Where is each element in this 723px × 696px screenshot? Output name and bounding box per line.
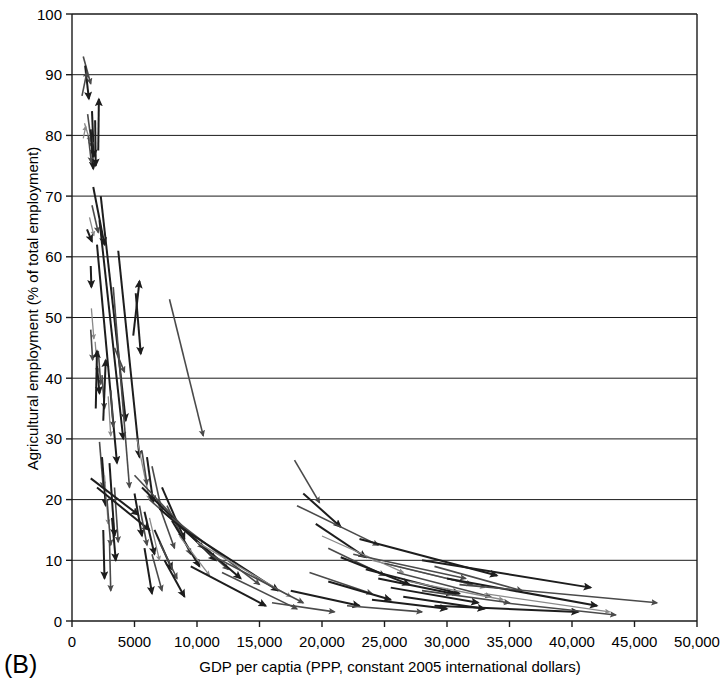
data-arrow — [272, 603, 335, 612]
data-arrow — [90, 217, 94, 235]
data-arrow — [210, 554, 304, 603]
y-axis-title: Agricultural employment (% of total empl… — [24, 99, 41, 519]
svg-text:10: 10 — [45, 552, 62, 569]
data-arrow — [347, 606, 422, 612]
svg-text:50,000: 50,000 — [674, 633, 720, 650]
data-arrow — [91, 478, 139, 514]
panel-label: (B) — [4, 650, 37, 679]
x-axis-title: GDP per captia (PPP, constant 2005 inter… — [80, 658, 700, 675]
svg-text:45,000: 45,000 — [612, 633, 658, 650]
data-arrow — [83, 126, 86, 138]
svg-text:70: 70 — [45, 188, 62, 205]
svg-text:100: 100 — [37, 6, 62, 23]
data-arrow — [191, 566, 266, 605]
axis-ticks — [66, 14, 697, 627]
data-arrow — [145, 548, 153, 594]
gridlines — [72, 14, 697, 621]
data-arrow — [180, 536, 210, 575]
svg-text:35,000: 35,000 — [487, 633, 533, 650]
svg-text:30: 30 — [45, 430, 62, 447]
svg-text:5000: 5000 — [118, 633, 151, 650]
svg-text:80: 80 — [45, 127, 62, 144]
data-arrow — [91, 266, 92, 287]
data-arrow — [170, 299, 204, 436]
svg-text:25,000: 25,000 — [362, 633, 408, 650]
data-arrow — [95, 120, 96, 166]
svg-text:50: 50 — [45, 309, 62, 326]
data-arrow — [98, 99, 99, 151]
data-arrow — [103, 530, 104, 579]
data-arrow — [96, 351, 97, 409]
data-arrow — [152, 554, 162, 590]
svg-text:60: 60 — [45, 248, 62, 265]
svg-text:30,000: 30,000 — [424, 633, 470, 650]
data-arrow — [137, 439, 150, 500]
data-arrows — [82, 56, 657, 614]
data-arrow — [108, 396, 111, 435]
data-arrow — [303, 494, 341, 527]
svg-text:40,000: 40,000 — [549, 633, 595, 650]
data-arrow — [310, 572, 373, 593]
svg-text:0: 0 — [68, 633, 76, 650]
data-arrow — [87, 229, 92, 241]
data-arrow — [103, 360, 106, 421]
svg-text:20,000: 20,000 — [299, 633, 345, 650]
svg-text:90: 90 — [45, 66, 62, 83]
scatter-arrow-plot: 01020304050607080901000500010,00015,0002… — [0, 0, 723, 696]
data-arrow — [110, 542, 111, 591]
svg-text:0: 0 — [54, 613, 62, 630]
svg-text:20: 20 — [45, 491, 62, 508]
data-arrow — [97, 487, 150, 529]
data-arrow — [91, 330, 93, 360]
data-arrow — [165, 560, 185, 596]
data-arrow — [291, 591, 360, 606]
data-arrow — [136, 293, 141, 354]
svg-text:15,000: 15,000 — [237, 633, 283, 650]
svg-text:10,000: 10,000 — [174, 633, 220, 650]
figure-panel-b: 01020304050607080901000500010,00015,0002… — [0, 0, 723, 696]
svg-text:40: 40 — [45, 370, 62, 387]
data-arrow — [328, 582, 391, 600]
